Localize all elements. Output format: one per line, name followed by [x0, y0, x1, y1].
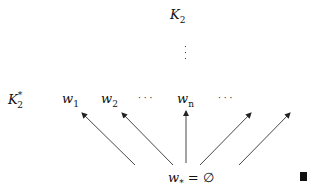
arrow-to-dots: [200, 113, 251, 165]
node-w-star-empty: w* = ∅: [168, 171, 214, 188]
arrow-to-w1: [82, 113, 135, 165]
qed-square-icon: [300, 172, 307, 181]
arrows: [0, 0, 312, 190]
arrow-to-w2: [122, 113, 173, 165]
arrow-to-beyond: [239, 113, 290, 165]
